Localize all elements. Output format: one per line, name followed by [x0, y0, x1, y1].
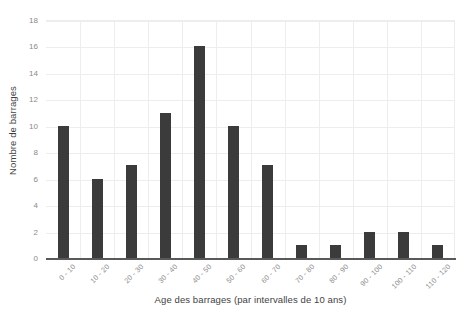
y-axis-title-label: Nombre de barrages [7, 86, 18, 175]
x-axis-tick-label: 40 - 50 [191, 262, 214, 285]
y-axis-tick-label: 2 [34, 227, 38, 236]
bar[interactable] [330, 245, 341, 258]
bar[interactable] [398, 232, 409, 258]
plot-area [46, 20, 455, 258]
bar[interactable] [364, 232, 375, 258]
y-axis-tick-label: 10 [29, 121, 38, 130]
x-axis-tick-label: 80 - 90 [327, 262, 350, 285]
y-axis-tick-label: 18 [29, 16, 38, 25]
bar[interactable] [296, 245, 307, 258]
y-axis-tick-label: 14 [29, 68, 38, 77]
x-axis-tick-label: 0 - 10 [57, 262, 77, 282]
x-axis-tick-label: 60 - 70 [259, 262, 282, 285]
y-axis-tick-labels: 181614121086420 [22, 20, 42, 258]
x-axis-tick-label: 70 - 80 [293, 262, 316, 285]
x-axis-tick-labels: 0 - 1010 - 2020 - 3030 - 4040 - 5050 - 6… [46, 260, 455, 294]
bar[interactable] [92, 179, 103, 258]
x-axis-tick-label: 30 - 40 [156, 262, 179, 285]
x-axis-tick-label: 110 - 120 [424, 262, 453, 291]
bar[interactable] [160, 113, 171, 258]
x-axis-tick-label: 100 - 110 [390, 262, 419, 291]
x-axis-title: Age des barrages (par intervalles de 10 … [46, 294, 455, 305]
bar-chart: Nombre de barrages 181614121086420 0 - 1… [0, 0, 473, 316]
x-axis-tick-label: 10 - 20 [88, 262, 111, 285]
bar[interactable] [432, 245, 443, 258]
bar[interactable] [228, 126, 239, 258]
x-axis-tick-label: 90 - 100 [358, 262, 384, 288]
bar[interactable] [262, 165, 273, 258]
x-axis-tick-label: 20 - 30 [122, 262, 145, 285]
y-axis-tick-label: 8 [34, 148, 38, 157]
bar[interactable] [126, 165, 137, 258]
x-axis-tick-label: 50 - 60 [225, 262, 248, 285]
y-axis-tick-label: 16 [29, 42, 38, 51]
y-axis-title: Nombre de barrages [0, 0, 24, 260]
y-axis-tick-label: 4 [34, 201, 38, 210]
y-axis-tick-label: 6 [34, 174, 38, 183]
y-axis-tick-label: 0 [34, 254, 38, 263]
bar[interactable] [58, 126, 69, 258]
bars-layer [46, 21, 454, 258]
y-axis-tick-label: 12 [29, 95, 38, 104]
bar[interactable] [194, 46, 205, 258]
